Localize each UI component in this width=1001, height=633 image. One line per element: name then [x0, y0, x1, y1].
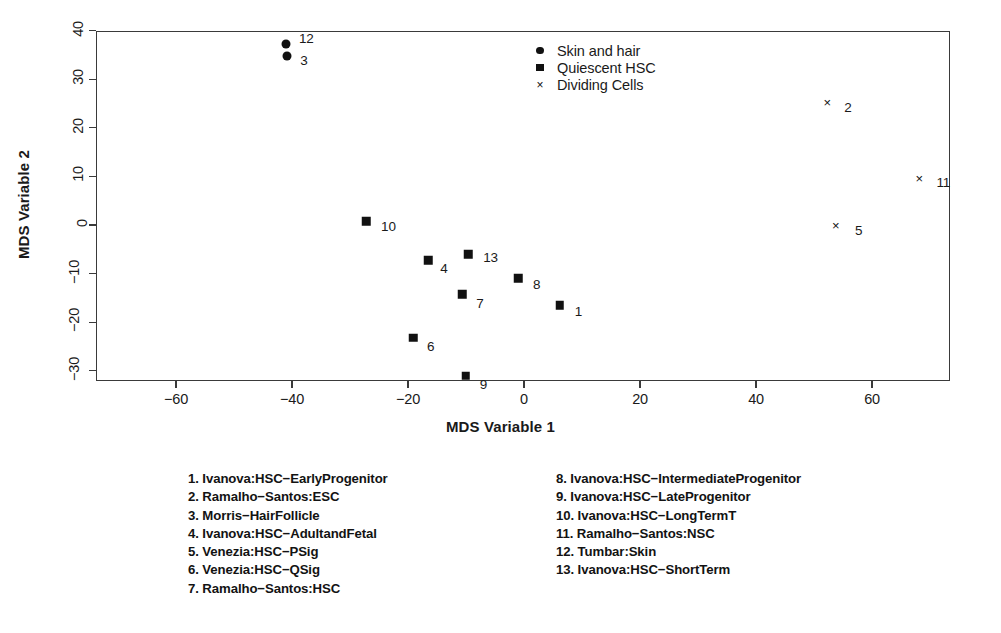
y-tick-label: 40 [0, 21, 86, 37]
key-item-left-4: 4. Ivanova:HSC−AdultandFetal [188, 525, 388, 543]
cross-marker-icon: × [531, 76, 549, 93]
y-tick-mark [89, 30, 96, 31]
x-tick-label: 0 [504, 391, 544, 407]
data-point-label-7: 7 [476, 296, 483, 311]
data-point-label-6: 6 [427, 339, 434, 354]
key-item-left-2: 2. Ramalho−Santos:ESC [188, 488, 388, 506]
legend-entry-cross: ×Dividing Cells [531, 76, 656, 93]
data-point-square-6 [409, 334, 418, 343]
y-tick-label: 0 [0, 215, 86, 231]
key-item-left-5: 5. Venezia:HSC−PSig [188, 543, 388, 561]
y-tick-mark [89, 176, 96, 177]
y-axis-title: MDS Variable 2 [15, 105, 32, 305]
key-list-left-column: 1. Ivanova:HSC−EarlyProgenitor2. Ramalho… [188, 470, 388, 598]
key-item-right-6: 13. Ivanova:HSC−ShortTerm [556, 561, 801, 579]
y-tick-mark [89, 79, 96, 80]
y-tick-label: −10 [0, 264, 86, 280]
data-point-label-2: 2 [844, 100, 851, 115]
y-tick-label: 30 [0, 69, 86, 85]
legend-label: Dividing Cells [557, 77, 643, 93]
data-point-label-9: 9 [480, 377, 487, 392]
key-item-left-6: 6. Venezia:HSC−QSig [188, 561, 388, 579]
x-tick-mark [523, 381, 524, 388]
data-point-circle-12 [282, 39, 291, 48]
data-point-label-13: 13 [483, 250, 498, 265]
data-point-square-8 [514, 274, 523, 283]
y-tick-label: 10 [0, 166, 86, 182]
key-item-right-2: 9. Ivanova:HSC−LateProgenitor [556, 488, 801, 506]
legend-entry-square: Quiescent HSC [531, 59, 656, 76]
legend-label: Skin and hair [557, 43, 640, 59]
data-point-square-9 [462, 371, 471, 380]
x-tick-mark [291, 381, 292, 388]
y-tick-mark [89, 224, 96, 225]
data-point-label-11: 11 [936, 175, 950, 190]
key-item-right-5: 12. Tumbar:Skin [556, 543, 801, 561]
y-tick-mark [89, 322, 96, 323]
x-axis-title: MDS Variable 1 [0, 418, 1001, 435]
y-tick-label: −30 [0, 361, 86, 377]
data-point-label-5: 5 [855, 223, 862, 238]
data-point-label-12: 12 [299, 31, 314, 46]
x-tick-mark [175, 381, 176, 388]
data-point-square-10 [362, 217, 371, 226]
key-item-left-1: 1. Ivanova:HSC−EarlyProgenitor [188, 470, 388, 488]
data-point-label-3: 3 [300, 53, 307, 68]
data-point-label-1: 1 [575, 304, 582, 319]
data-point-label-4: 4 [440, 261, 447, 276]
data-point-square-4 [424, 256, 433, 265]
data-point-square-7 [458, 290, 467, 299]
circle-marker-icon [531, 42, 549, 59]
mds-scatter-figure: 1231041381769×2×11×5 −60−40−200204060 40… [0, 0, 1001, 633]
key-item-left-7: 7. Ramalho−Santos:HSC [188, 580, 388, 598]
data-point-cross-5: × [830, 219, 841, 230]
y-tick-mark [89, 370, 96, 371]
x-tick-label: −40 [272, 391, 312, 407]
plot-area: 1231041381769×2×11×5 [96, 31, 950, 381]
x-tick-mark [755, 381, 756, 388]
y-tick-mark [89, 273, 96, 274]
data-point-square-1 [556, 301, 565, 310]
x-tick-mark [407, 381, 408, 388]
x-tick-label: 60 [852, 391, 892, 407]
key-item-right-3: 10. Ivanova:HSC−LongTermT [556, 507, 801, 525]
legend-label: Quiescent HSC [557, 60, 656, 76]
data-point-cross-11: × [914, 173, 925, 184]
x-tick-mark [639, 381, 640, 388]
legend-entry-circle: Skin and hair [531, 42, 656, 59]
x-tick-label: 40 [736, 391, 776, 407]
data-point-label-8: 8 [533, 277, 540, 292]
x-tick-label: −20 [388, 391, 428, 407]
x-tick-label: 20 [620, 391, 660, 407]
square-marker-icon [531, 59, 549, 76]
x-tick-mark [871, 381, 872, 388]
marker-legend: Skin and hairQuiescent HSC×Dividing Cell… [531, 42, 656, 93]
key-item-right-1: 8. Ivanova:HSC−IntermediateProgenitor [556, 470, 801, 488]
data-point-cross-2: × [822, 97, 833, 108]
x-tick-label: −60 [156, 391, 196, 407]
y-tick-label: 20 [0, 118, 86, 134]
data-point-circle-3 [283, 51, 292, 60]
key-list-right-column: 8. Ivanova:HSC−IntermediateProgenitor9. … [556, 470, 801, 580]
key-item-right-4: 11. Ramalho−Santos:NSC [556, 525, 801, 543]
data-point-label-10: 10 [381, 219, 396, 234]
y-tick-label: −20 [0, 312, 86, 328]
data-point-square-13 [464, 250, 473, 259]
y-tick-mark [89, 127, 96, 128]
key-item-left-3: 3. Morris−HairFollicle [188, 507, 388, 525]
